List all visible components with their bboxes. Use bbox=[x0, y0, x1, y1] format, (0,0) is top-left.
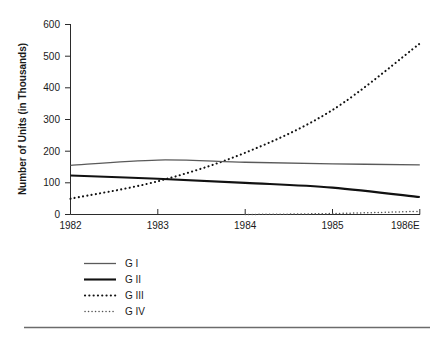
x-tick-label-1986E: 1986E bbox=[391, 220, 420, 231]
y-axis-title: Number of Units (in Thousands) bbox=[17, 43, 28, 195]
series-line-g2 bbox=[71, 176, 420, 198]
x-tick-label-1982: 1982 bbox=[59, 220, 82, 231]
legend-label-g4: G IV bbox=[125, 306, 145, 317]
legend-label-g3: G III bbox=[125, 290, 144, 301]
chart-page: Number of Units (in Thousands) 600 500 4… bbox=[0, 0, 444, 340]
series-line-g3 bbox=[71, 44, 420, 199]
y-tick-label-200: 200 bbox=[43, 146, 60, 157]
legend-label-g1: G I bbox=[125, 258, 138, 269]
line-chart: Number of Units (in Thousands) 600 500 4… bbox=[0, 0, 444, 340]
x-tick-label-1983: 1983 bbox=[147, 220, 170, 231]
y-tick-label-400: 400 bbox=[43, 82, 60, 93]
x-tick-label-1984: 1984 bbox=[234, 220, 257, 231]
legend-label-g2: G II bbox=[125, 274, 141, 285]
y-tick-label-100: 100 bbox=[43, 177, 60, 188]
y-tick-label-300: 300 bbox=[43, 114, 60, 125]
y-tick-label-500: 500 bbox=[43, 51, 60, 62]
y-tick-label-0: 0 bbox=[54, 209, 60, 220]
series-line-g1 bbox=[71, 160, 420, 165]
y-tick-label-600: 600 bbox=[43, 19, 60, 30]
x-tick-label-1985: 1985 bbox=[321, 220, 344, 231]
